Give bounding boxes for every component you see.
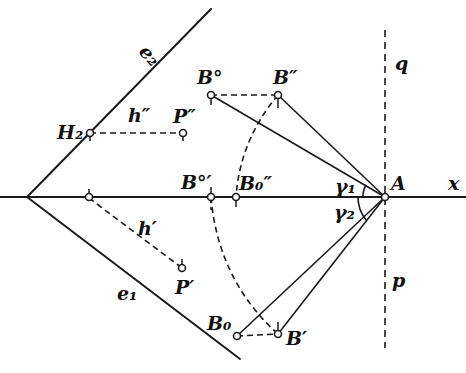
point-bzero [234,333,241,340]
label-b0-upper: B° [196,66,223,88]
point-bdouble [275,92,282,99]
label-p-prime: P′ [174,276,194,298]
point-a [382,194,389,201]
label-b-double-prime: B″ [272,66,298,88]
point-pdouble [180,130,187,137]
label-b0-prime: B°′ [180,171,212,193]
line-b0-to-a [211,95,385,197]
line-bdouble-to-a [278,95,385,197]
point-bsingle [275,331,282,338]
construction-figure: e₂ e₁ H₂ h″ P″ h′ P′ B° B″ B°′ B₀″ B₀ B′… [0,0,466,373]
label-e2: e₂ [135,40,165,70]
label-h-double-prime: h″ [128,104,151,126]
point-b0-upper [208,92,215,99]
line-bzero-to-a [237,197,385,336]
label-b-prime: B′ [285,327,307,349]
label-gamma1: γ₁ [335,175,356,197]
point-h-origin [86,194,93,201]
label-b-zero: B₀ [206,312,232,334]
label-x: x [447,172,460,194]
bzero-to-bsingle-dashed [237,334,278,336]
label-e1: e₁ [117,282,137,304]
line-bsingle-to-a [278,197,385,334]
point-b0prime [208,194,215,201]
label-h-prime: h′ [138,217,157,239]
label-q: q [395,52,408,74]
h-prime-line [89,198,182,268]
point-h2 [87,130,94,137]
label-p-double-prime: P″ [172,105,196,127]
label-gamma2: γ₂ [334,201,355,223]
label-p: p [392,269,406,291]
trace-e1-line [27,197,240,359]
label-h2: H₂ [56,121,83,143]
point-psingle [179,265,186,272]
trace-e2-line [27,9,211,197]
label-a: A [389,172,406,194]
gamma1-arc [363,185,366,197]
label-b0-double-prime: B₀″ [238,172,272,194]
point-b0double [233,194,240,201]
